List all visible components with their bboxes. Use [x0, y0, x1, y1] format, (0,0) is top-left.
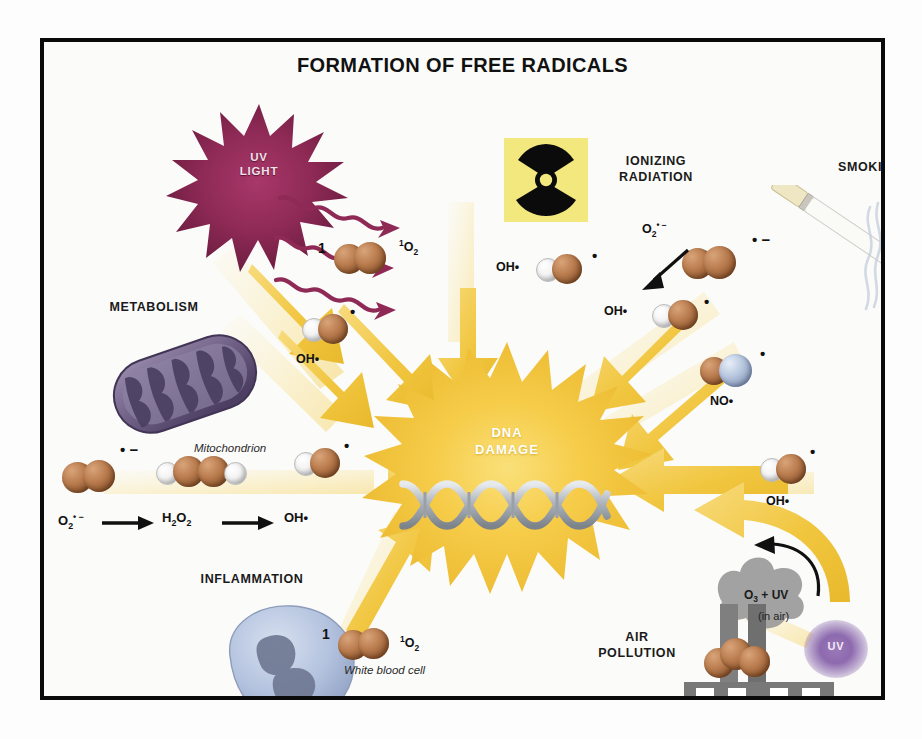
- radiation-icon: [504, 138, 588, 222]
- label-superoxide-smoking: O2• −: [642, 220, 667, 239]
- singlet-prefix-inflammation: 1: [322, 626, 330, 642]
- air-pollution-label: AIR POLLUTION: [582, 630, 692, 661]
- superoxide-pointer-arrow: [640, 248, 694, 292]
- radical-dot-smoking: •: [704, 294, 709, 309]
- radical-dot-radiation: •: [592, 248, 597, 263]
- radical-dot-metabolism: • −: [120, 442, 138, 457]
- page-title: FORMATION OF FREE RADICALS: [44, 54, 881, 77]
- diagram-stage: FORMATION OF FREE RADICALS: [0, 0, 922, 739]
- radical-dot-no: •: [760, 346, 765, 361]
- molecule-singlet-oxygen-inflammation: [338, 628, 394, 662]
- white-blood-cell-caption: White blood cell: [344, 664, 425, 676]
- smoking-label: SMOKING: [822, 160, 881, 176]
- mitochondrion-icon: [106, 329, 264, 439]
- molecule-hydrogen-peroxide: [156, 454, 260, 490]
- molecule-hydroxyl-pollution: [760, 454, 810, 486]
- molecule-hydroxyl-uv: [302, 314, 352, 346]
- cigarette-icon: [744, 185, 881, 365]
- dna-damage-label-line1: DNA: [362, 425, 652, 442]
- uv-light-label: UV LIGHT: [166, 150, 352, 179]
- reaction-arrow-2: [220, 514, 276, 532]
- ionizing-radiation-label-line1: IONIZING: [596, 154, 716, 170]
- uv-light-label-line2: LIGHT: [166, 164, 352, 178]
- uv-blob-label: UV: [804, 640, 868, 652]
- molecule-ozone: [704, 638, 774, 680]
- label-singlet-oxygen-uv: 1O2: [399, 238, 418, 257]
- reaction-arrow-1: [100, 514, 156, 532]
- dna-helix-icon: [399, 476, 611, 534]
- reaction-step-3: OH•: [284, 510, 308, 525]
- label-singlet-oxygen-inflammation: 1O2: [400, 634, 419, 653]
- molecule-hydroxyl-metabolism: [294, 448, 344, 480]
- air-pollution-label-line2: POLLUTION: [582, 646, 692, 662]
- molecule-hydroxyl-smoking: [652, 300, 702, 332]
- metabolism-label: METABOLISM: [84, 300, 224, 316]
- air-pollution-label-line1: AIR: [582, 630, 692, 646]
- molecule-nitric-oxide: [700, 354, 756, 388]
- radical-dot-metabolism-oh: •: [344, 438, 349, 453]
- mitochondrion-caption: Mitochondrion: [194, 442, 266, 454]
- radical-dot-pollution: •: [810, 444, 815, 459]
- radical-dot-uv: •: [350, 304, 355, 319]
- dna-damage-label: DNA DAMAGE: [362, 425, 652, 459]
- dna-damage-label-line2: DAMAGE: [362, 442, 652, 459]
- label-hydroxyl-smoking: OH•: [604, 304, 627, 318]
- ionizing-radiation-label-line2: RADIATION: [596, 170, 716, 186]
- label-hydroxyl-uv: OH•: [296, 352, 319, 366]
- radical-dot-superoxide: • −: [752, 232, 770, 247]
- air-reaction-note: (in air): [758, 610, 789, 622]
- reaction-step-2: H2O2: [162, 510, 191, 528]
- uv-light-label-line1: UV: [166, 150, 352, 164]
- air-reaction-curved-arrow: [742, 536, 832, 602]
- molecule-singlet-oxygen-uv: [334, 242, 392, 276]
- inflammation-label: INFLAMMATION: [172, 572, 332, 588]
- diagram-canvas: FORMATION OF FREE RADICALS: [44, 42, 881, 696]
- singlet-prefix-uv: 1: [318, 240, 326, 256]
- label-hydroxyl-pollution: OH•: [766, 494, 789, 508]
- molecule-superoxide-metabolism: [62, 460, 120, 494]
- ionizing-radiation-label: IONIZING RADIATION: [596, 154, 716, 185]
- label-hydroxyl-radiation: OH•: [496, 260, 519, 274]
- molecule-hydroxyl-radiation: [536, 254, 586, 286]
- reaction-step-1: O2• −: [58, 512, 84, 531]
- label-nitric-oxide: NO•: [710, 394, 733, 408]
- dna-damage-burst: [362, 342, 652, 602]
